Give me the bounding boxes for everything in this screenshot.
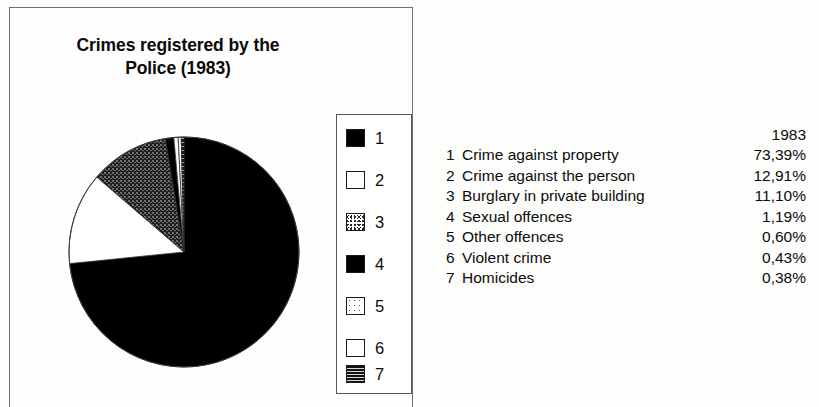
row-value: 0,38% — [762, 269, 806, 287]
chart-panel: Crimes registered by the Police (1983) — [9, 7, 413, 407]
row-value: 0,43% — [762, 249, 806, 267]
legend-item-7[interactable]: 7 — [346, 361, 408, 387]
table-header-row: 1983 — [440, 126, 808, 146]
legend-item-4[interactable]: 4 — [346, 251, 408, 277]
table-row: 2 Crime against the person 12,91% — [440, 167, 808, 188]
legend-item-3[interactable]: 3 — [346, 209, 408, 235]
table-row: 7 Homicides 0,38% — [440, 269, 808, 290]
legend-label-3: 3 — [375, 214, 384, 231]
row-index: 7 — [446, 269, 455, 287]
row-value: 1,19% — [762, 208, 806, 226]
legend-label-2: 2 — [375, 172, 384, 189]
row-label: Crime against the person — [462, 167, 635, 185]
table-row: 1 Crime against property 73,39% — [440, 146, 808, 167]
legend-swatch-4-icon — [346, 255, 365, 273]
row-index: 4 — [446, 208, 455, 226]
row-index: 6 — [446, 249, 455, 267]
pie-chart-svg — [68, 136, 300, 368]
data-table: 1983 1 Crime against property 73,39% 2 C… — [440, 126, 808, 290]
legend-label-7: 7 — [375, 366, 384, 383]
legend-label-6: 6 — [375, 340, 384, 357]
row-index: 2 — [446, 167, 455, 185]
row-index: 5 — [446, 228, 455, 246]
legend-item-1[interactable]: 1 — [346, 125, 408, 151]
row-label: Burglary in private building — [462, 187, 645, 205]
row-value: 11,10% — [755, 187, 806, 205]
chart-title-line-1: Crimes registered by the — [28, 34, 328, 57]
row-value: 0,60% — [762, 228, 806, 246]
row-label: Other offences — [462, 228, 563, 246]
legend: 1 2 3 4 5 6 7 — [336, 114, 412, 394]
chart-title: Crimes registered by the Police (1983) — [28, 34, 328, 81]
pie-chart — [68, 136, 300, 368]
table-row: 4 Sexual offences 1,19% — [440, 208, 808, 229]
row-value: 12,91% — [753, 167, 806, 185]
row-label: Crime against property — [462, 146, 619, 164]
legend-label-5: 5 — [375, 298, 384, 315]
table-year-header: 1983 — [772, 126, 806, 144]
legend-item-2[interactable]: 2 — [346, 167, 408, 193]
legend-swatch-3-icon — [346, 213, 365, 231]
legend-swatch-6-icon — [346, 339, 365, 357]
table-row: 6 Violent crime 0,43% — [440, 249, 808, 270]
legend-swatch-7-icon — [346, 365, 365, 383]
legend-label-1: 1 — [375, 130, 384, 147]
row-label: Violent crime — [462, 249, 551, 267]
row-value: 73,39% — [753, 146, 806, 164]
legend-item-5[interactable]: 5 — [346, 293, 408, 319]
pie-slices — [69, 137, 299, 367]
row-label: Homicides — [462, 269, 534, 287]
chart-title-line-2: Police (1983) — [28, 57, 328, 80]
legend-label-4: 4 — [375, 256, 384, 273]
legend-swatch-2-icon — [346, 171, 365, 189]
row-index: 3 — [446, 187, 455, 205]
legend-item-6[interactable]: 6 — [346, 335, 408, 361]
legend-swatch-1-icon — [346, 129, 365, 147]
table-row: 5 Other offences 0,60% — [440, 228, 808, 249]
table-row: 3 Burglary in private building 11,10% — [440, 187, 808, 208]
row-label: Sexual offences — [462, 208, 572, 226]
row-index: 1 — [446, 146, 455, 164]
legend-swatch-5-icon — [346, 297, 365, 315]
